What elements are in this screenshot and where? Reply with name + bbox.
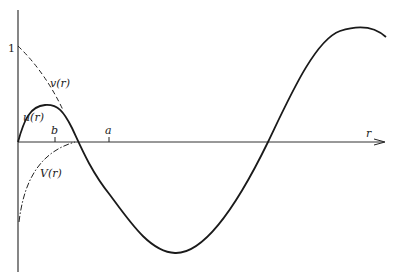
curve-V [19,142,75,222]
curve-u [18,27,386,253]
curve-label-V: V(r) [40,167,62,180]
diagram-canvas: r 1 b a v(r) V(r) u(r) [0,0,397,278]
curve-label-u: u(r) [23,111,44,124]
tick-label-b: b [51,124,58,137]
wavefunction-diagram: r 1 b a v(r) V(r) u(r) [0,0,397,278]
curve-label-v: v(r) [50,77,70,90]
r-axis-label: r [366,127,372,140]
y-tick-label-1: 1 [8,42,15,55]
tick-label-a: a [105,124,112,137]
